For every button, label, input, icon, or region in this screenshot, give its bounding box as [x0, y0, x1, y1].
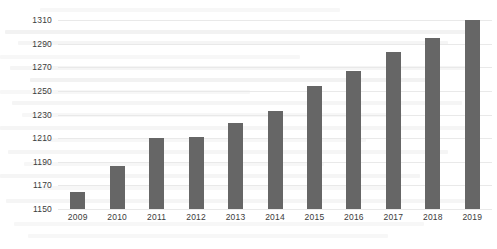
bar[interactable] — [70, 192, 85, 209]
bar[interactable] — [228, 123, 243, 209]
bar[interactable] — [386, 52, 401, 209]
bar[interactable] — [149, 138, 164, 209]
y-tick-label: 1190 — [33, 157, 52, 167]
x-tick-label: 2010 — [107, 212, 127, 222]
bar[interactable] — [110, 166, 125, 209]
x-axis: 2009201020112012201320142015201620172018… — [58, 212, 492, 232]
y-axis: 115011701190121012301250127012901310 — [0, 20, 52, 209]
x-tick-label: 2011 — [147, 212, 166, 222]
bar-chart: 115011701190121012301250127012901310 200… — [0, 0, 497, 249]
x-tick-label: 2017 — [384, 212, 404, 222]
x-tick-label: 2013 — [226, 212, 246, 222]
bar[interactable] — [465, 20, 480, 209]
gridline — [58, 209, 492, 210]
bar[interactable] — [425, 38, 440, 209]
x-tick-label: 2015 — [305, 212, 325, 222]
x-tick-label: 2014 — [265, 212, 285, 222]
bars-container — [58, 20, 492, 209]
x-tick-label: 2018 — [423, 212, 443, 222]
x-tick-label: 2012 — [186, 212, 206, 222]
bar[interactable] — [189, 137, 204, 209]
y-tick-label: 1170 — [33, 180, 52, 190]
y-tick-label: 1230 — [32, 110, 52, 120]
y-tick-label: 1270 — [32, 62, 52, 72]
y-tick-label: 1250 — [32, 86, 52, 96]
bar[interactable] — [307, 86, 322, 209]
x-tick-label: 2019 — [462, 212, 482, 222]
x-tick-label: 2009 — [68, 212, 88, 222]
x-tick-label: 2016 — [344, 212, 364, 222]
y-tick-label: 1290 — [32, 39, 52, 49]
y-tick-label: 1150 — [33, 204, 52, 214]
bar[interactable] — [268, 111, 283, 209]
y-tick-label: 1310 — [32, 15, 52, 25]
y-tick-label: 1210 — [32, 133, 52, 143]
bar[interactable] — [346, 71, 361, 209]
